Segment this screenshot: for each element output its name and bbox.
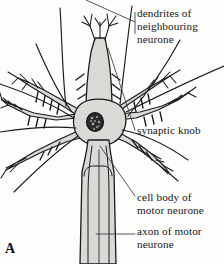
label-line: synaptic knob (137, 124, 201, 137)
panel-letter: A (5, 241, 15, 257)
leader-dendrites (86, 0, 135, 22)
label-line: axon of motor (137, 225, 202, 238)
cell-body-of-motor-neurone-label: cell body of motor neurone (137, 191, 204, 217)
label-line: cell body of (137, 191, 204, 204)
label-line: dendrites of (137, 7, 198, 20)
axon-body (80, 140, 116, 264)
label-line: neurone (137, 33, 198, 46)
label-line: neurone (137, 238, 202, 251)
dendrites-of-neighbouring-neurone-label: dendrites of neighbouring neurone (137, 7, 198, 47)
nucleus (87, 113, 104, 132)
synaptic-knob-label: synaptic knob (137, 124, 201, 137)
axon-of-motor-neurone-label: axon of motor neurone (137, 225, 202, 251)
label-line: neighbouring (137, 20, 198, 33)
label-line: motor neurone (137, 204, 204, 217)
figure-panel: dendrites of neighbouring neurone synapt… (0, 0, 224, 264)
